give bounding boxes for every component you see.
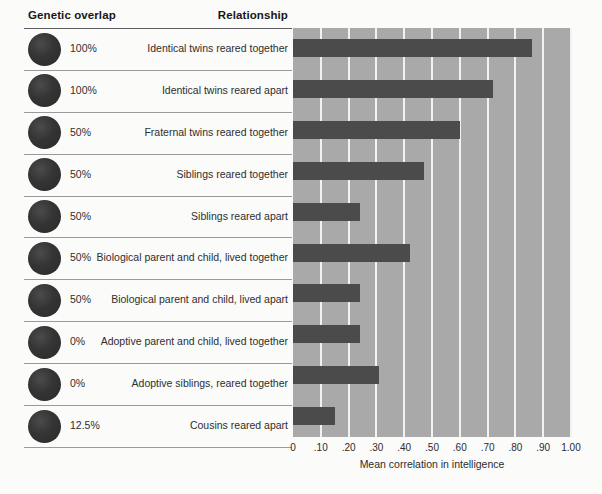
bar — [293, 366, 379, 384]
table-row: 100%Identical twins reared apart — [24, 71, 292, 113]
table-row: 0%Adoptive siblings, reared together — [24, 364, 292, 406]
genetic-overlap-value: 50% — [70, 251, 91, 263]
genetic-overlap-dot-icon — [28, 33, 61, 66]
genetic-overlap-value: 100% — [70, 42, 97, 54]
x-axis-tick-label: 1.00 — [561, 442, 580, 453]
relationship-label: Siblings reared apart — [191, 210, 288, 222]
genetic-overlap-value: 12.5% — [70, 419, 100, 431]
relationship-label: Adoptive parent and child, lived togethe… — [101, 335, 288, 347]
genetic-overlap-table: Genetic overlap Relationship 100%Identic… — [24, 6, 292, 444]
bar-track — [293, 233, 571, 274]
bar — [293, 407, 335, 425]
x-axis-tick-label: .10 — [314, 442, 328, 453]
bar — [293, 80, 493, 98]
x-axis-tick-label: .80 — [508, 442, 522, 453]
genetic-overlap-value: 50% — [70, 168, 91, 180]
table-row: 50%Biological parent and child, lived ap… — [24, 280, 292, 322]
x-axis-tick-label: .90 — [536, 442, 550, 453]
x-axis-tick-label: .20 — [342, 442, 356, 453]
table-header-row: Genetic overlap Relationship — [24, 6, 292, 27]
table-row: 100%Identical twins reared together — [24, 28, 292, 71]
genetic-overlap-value: 50% — [70, 210, 91, 222]
genetic-overlap-dot-icon — [28, 158, 61, 191]
genetic-overlap-value: 50% — [70, 293, 91, 305]
table-row: 50%Siblings reared together — [24, 155, 292, 197]
bar — [293, 162, 424, 180]
bar-track — [293, 314, 571, 355]
genetic-overlap-value: 50% — [70, 126, 91, 138]
bar — [293, 121, 460, 139]
bar — [293, 203, 360, 221]
bar-track — [293, 69, 571, 110]
x-axis-ticks: 0.10.20.30.40.50.60.70.80.901.00 — [293, 437, 571, 457]
bar — [293, 39, 532, 57]
table-body: 100%Identical twins reared together100%I… — [24, 28, 292, 448]
bar-track — [293, 110, 571, 151]
bar — [293, 284, 360, 302]
x-axis-title: Mean correlation in intelligence — [293, 458, 571, 470]
x-axis-tick-label: .50 — [425, 442, 439, 453]
bar-chart-plot-area — [293, 28, 571, 437]
heritability-intelligence-figure: Genetic overlap Relationship 100%Identic… — [0, 0, 602, 494]
bar-track — [293, 273, 571, 314]
genetic-overlap-dot-icon — [28, 242, 61, 275]
x-axis-tick-label: .60 — [453, 442, 467, 453]
relationship-label: Adoptive siblings, reared together — [132, 377, 288, 389]
x-axis-tick-label: .40 — [397, 442, 411, 453]
genetic-overlap-value: 0% — [70, 377, 85, 389]
relationship-label: Identical twins reared apart — [162, 84, 288, 96]
bar-track — [293, 396, 571, 437]
x-axis-tick-label: .70 — [481, 442, 495, 453]
table-row: 0%Adoptive parent and child, lived toget… — [24, 322, 292, 364]
genetic-overlap-dot-icon — [28, 326, 61, 359]
relationship-label: Biological parent and child, lived toget… — [97, 251, 288, 263]
table-row: 12.5%Cousins reared apart — [24, 406, 292, 448]
bar-track — [293, 355, 571, 396]
x-axis-tick-label: 0 — [290, 442, 296, 453]
plot-background — [293, 28, 571, 437]
relationship-label: Siblings reared together — [177, 168, 289, 180]
genetic-overlap-dot-icon — [28, 410, 61, 443]
relationship-label: Identical twins reared together — [147, 42, 288, 54]
bar-track — [293, 28, 571, 69]
bar — [293, 325, 360, 343]
bar — [293, 244, 410, 262]
genetic-overlap-dot-icon — [28, 116, 61, 149]
table-row: 50%Biological parent and child, lived to… — [24, 238, 292, 280]
genetic-overlap-dot-icon — [28, 368, 61, 401]
bar-track — [293, 151, 571, 192]
relationship-label: Cousins reared apart — [190, 419, 288, 431]
column-header-relationship: Relationship — [218, 9, 288, 21]
genetic-overlap-dot-icon — [28, 284, 61, 317]
column-header-genetic-overlap: Genetic overlap — [28, 9, 116, 21]
relationship-label: Fraternal twins reared together — [144, 126, 288, 138]
genetic-overlap-dot-icon — [28, 200, 61, 233]
table-row: 50%Siblings reared apart — [24, 197, 292, 239]
genetic-overlap-dot-icon — [28, 74, 61, 107]
table-row: 50%Fraternal twins reared together — [24, 113, 292, 155]
relationship-label: Biological parent and child, lived apart — [111, 293, 288, 305]
genetic-overlap-value: 100% — [70, 84, 97, 96]
x-axis-tick-label: .30 — [369, 442, 383, 453]
genetic-overlap-value: 0% — [70, 335, 85, 347]
bar-track — [293, 192, 571, 233]
